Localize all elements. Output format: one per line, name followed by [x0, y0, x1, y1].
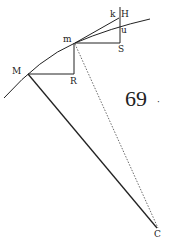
- label-k: k: [110, 10, 115, 19]
- figure-number: 69: [125, 88, 147, 110]
- label-u: u: [121, 26, 127, 35]
- label-R: R: [70, 77, 77, 86]
- geometry-figure: M m R S H k u C 69 ·: [0, 0, 169, 247]
- label-H: H: [121, 10, 129, 19]
- label-S: S: [118, 45, 124, 54]
- label-M: M: [12, 67, 21, 76]
- tangent-mk: [75, 18, 119, 43]
- figure-number-dot: ·: [157, 98, 160, 107]
- figure-drawing: [0, 0, 169, 247]
- line-mC: [75, 44, 158, 228]
- label-C: C: [154, 230, 161, 239]
- label-m: m: [63, 35, 72, 44]
